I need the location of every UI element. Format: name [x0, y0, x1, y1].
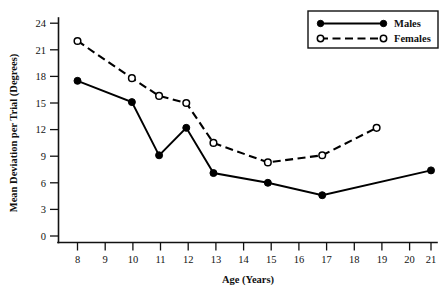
data-point [156, 152, 163, 159]
x-axis-ticks [78, 243, 432, 251]
x-tick-label: 10 [128, 254, 139, 265]
legend-marker-filled-circle [380, 20, 386, 26]
line-chart: Mean Deviation per Trial (Degrees) 24 21… [0, 0, 447, 293]
y-tick-labels: 24 21 18 15 12 9 6 3 0 [36, 18, 47, 242]
x-tick-label: 20 [404, 254, 415, 265]
y-tick-label: 0 [41, 231, 46, 242]
series-line-males [78, 81, 432, 195]
x-tick-label: 21 [426, 254, 437, 265]
data-point [128, 99, 135, 106]
data-point [210, 170, 217, 177]
data-point [74, 38, 81, 45]
y-tick-label: 24 [36, 18, 47, 29]
data-point [319, 192, 326, 199]
x-axis-title: Age (Years) [222, 274, 275, 286]
x-tick-label: 13 [211, 254, 222, 265]
y-axis-ticks [50, 23, 58, 236]
legend-label-males: Males [394, 18, 421, 29]
x-tick-labels: 8 9 10 11 12 13 14 15 16 17 18 19 20 21 [75, 254, 436, 265]
x-tick-label: 11 [155, 254, 165, 265]
data-point [156, 93, 163, 100]
y-tick-label: 9 [41, 151, 46, 162]
chart-canvas: Mean Deviation per Trial (Degrees) 24 21… [0, 0, 447, 293]
series-females [74, 38, 380, 166]
data-point [373, 125, 380, 132]
x-tick-label: 16 [294, 254, 305, 265]
x-tick-label: 15 [266, 254, 277, 265]
data-point [74, 77, 81, 84]
x-tick-label: 12 [183, 254, 194, 265]
y-tick-label: 3 [41, 204, 46, 215]
series-males [74, 77, 435, 198]
series-line-females [78, 41, 377, 162]
series-layer [74, 38, 435, 199]
data-point [264, 179, 271, 186]
data-point [183, 124, 190, 131]
data-point [210, 140, 217, 147]
x-tick-label: 8 [75, 254, 80, 265]
y-axis-title: Mean Deviation per Trial (Degrees) [8, 53, 20, 212]
legend-marker-open-circle [317, 35, 323, 41]
y-tick-label: 6 [41, 178, 46, 189]
legend-label-females: Females [394, 33, 431, 44]
legend-marker-filled-circle [317, 20, 323, 26]
x-tick-label: 14 [238, 254, 249, 265]
y-tick-label: 18 [36, 71, 47, 82]
legend-marker-open-circle [380, 35, 386, 41]
data-point [183, 100, 190, 107]
x-tick-label: 9 [103, 254, 108, 265]
data-point [319, 152, 326, 159]
data-point [265, 159, 272, 166]
data-point [129, 75, 136, 82]
x-tick-label: 18 [349, 254, 360, 265]
x-tick-label: 19 [377, 254, 388, 265]
x-tick-label: 17 [321, 254, 332, 265]
data-point [428, 167, 435, 174]
y-tick-label: 12 [36, 124, 47, 135]
chart-legend: Males Females [308, 11, 438, 48]
y-tick-label: 15 [36, 98, 47, 109]
y-tick-label: 21 [36, 45, 47, 56]
